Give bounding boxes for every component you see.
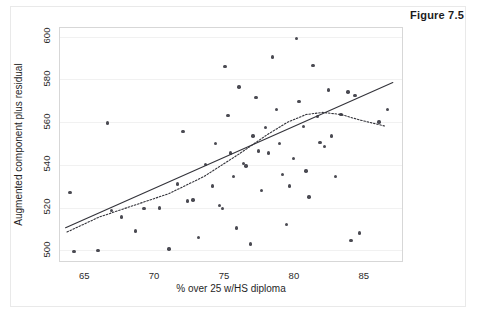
x-tick-65: 65 xyxy=(69,270,99,281)
y-tick-540: 540 xyxy=(41,149,52,179)
y-tick-520: 520 xyxy=(41,192,52,222)
x-tick-85: 85 xyxy=(349,270,379,281)
y-tick-560: 560 xyxy=(41,106,52,136)
y-tick-600: 600 xyxy=(41,21,52,51)
loess-smooth-line xyxy=(67,112,386,232)
x-tick-70: 70 xyxy=(139,270,169,281)
x-axis-title: % over 25 w/HS diploma xyxy=(59,283,403,294)
scatter-plot-chart: Augmented component plus residual 500520… xyxy=(0,0,480,318)
fit-lines xyxy=(60,28,402,261)
y-tick-500: 500 xyxy=(41,234,52,264)
plot-frame xyxy=(59,27,403,262)
y-tick-580: 580 xyxy=(41,63,52,93)
linear-fit-line xyxy=(66,82,393,227)
x-tick-80: 80 xyxy=(279,270,309,281)
plot-area xyxy=(60,28,402,261)
figure-page: Figure 7.5 Augmented component plus resi… xyxy=(0,0,480,318)
y-axis-title: Augmented component plus residual xyxy=(12,27,25,262)
x-tick-75: 75 xyxy=(209,270,239,281)
